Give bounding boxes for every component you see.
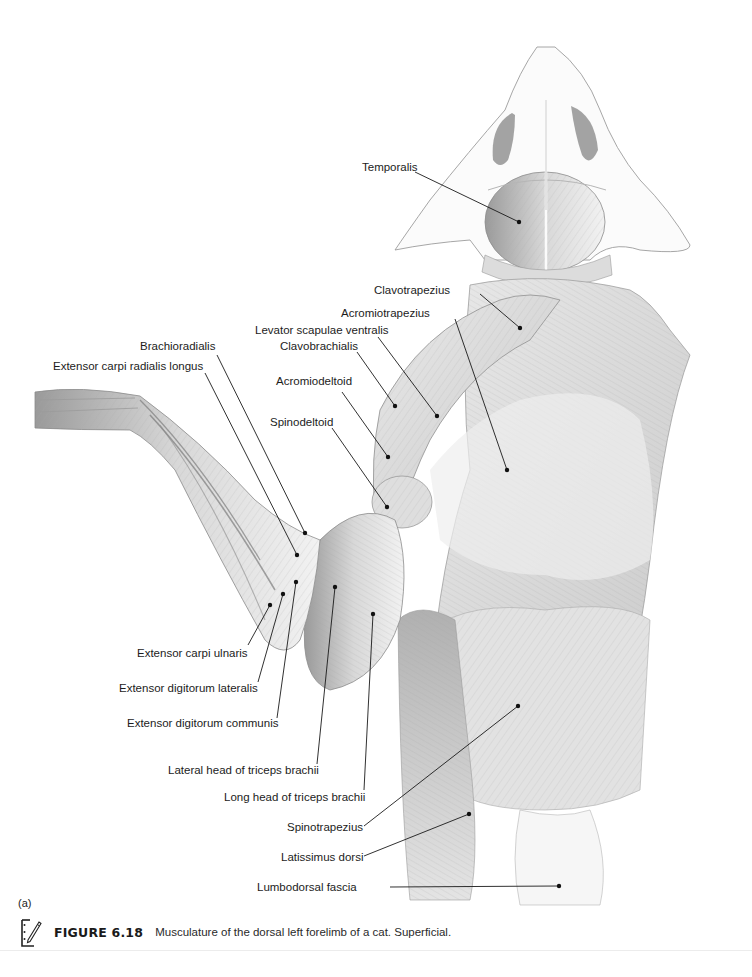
label-spinotrapezius: Spinotrapezius: [287, 820, 363, 834]
label-levator-scapulae-ventralis: Levator scapulae ventralis: [255, 323, 389, 337]
figure-caption-text: Musculature of the dorsal left forelimb …: [155, 926, 451, 938]
panel-letter: (a): [18, 897, 31, 909]
label-temporalis: Temporalis: [362, 160, 418, 174]
label-spinodeltoid: Spinodeltoid: [270, 415, 333, 429]
label-extensor-digitorum-lateralis: Extensor digitorum lateralis: [119, 681, 258, 695]
label-extensor-carpi-ulnaris: Extensor carpi ulnaris: [137, 646, 248, 660]
page-divider: [0, 950, 752, 951]
label-acromiotrapezius: Acromiotrapezius: [341, 306, 430, 320]
figure-number: FIGURE 6.18: [54, 925, 143, 940]
label-brachioradialis: Brachioradialis: [140, 339, 215, 353]
figure-caption: FIGURE 6.18 Musculature of the dorsal le…: [20, 914, 451, 950]
label-latissimus-dorsi: Latissimus dorsi: [281, 850, 363, 864]
notebook-pencil-icon: [20, 916, 42, 948]
label-clavobrachialis: Clavobrachialis: [280, 339, 358, 353]
label-acromiodeltoid: Acromiodeltoid: [276, 374, 352, 388]
label-lumbodorsal-fascia: Lumbodorsal fascia: [257, 880, 357, 894]
label-extensor-carpi-radialis-longus: Extensor carpi radialis longus: [53, 359, 203, 373]
label-lateral-head-triceps-brachii: Lateral head of triceps brachii: [168, 763, 319, 777]
cat-forelimb-musculature-illustration: [0, 0, 752, 977]
label-long-head-triceps-brachii: Long head of triceps brachii: [224, 790, 365, 804]
label-clavotrapezius: Clavotrapezius: [374, 283, 450, 297]
label-extensor-digitorum-communis: Extensor digitorum communis: [127, 716, 278, 730]
